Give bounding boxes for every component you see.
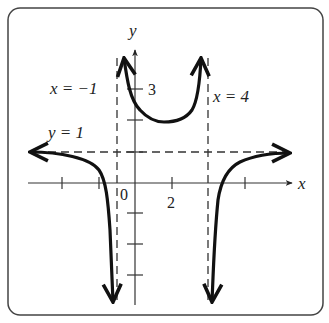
y-tick-label-3: 3: [148, 81, 156, 98]
asymptote-label-x-4: x = 4: [212, 87, 250, 106]
x-axis-label: x: [297, 174, 306, 193]
x-tick-label-2: 2: [167, 194, 175, 211]
right-branch-curve: [212, 153, 290, 302]
asymptote-label-y-1: y = 1: [46, 123, 84, 142]
figure-frame: [8, 8, 323, 315]
left-branch-curve: [30, 152, 113, 302]
asymptote-label-x-neg1: x = −1: [49, 79, 98, 98]
rational-function-graph: y x 0 2 3 x = −1 x = 4 y = 1: [0, 0, 329, 323]
y-axis-label: y: [127, 21, 137, 40]
origin-label: 0: [120, 186, 128, 203]
